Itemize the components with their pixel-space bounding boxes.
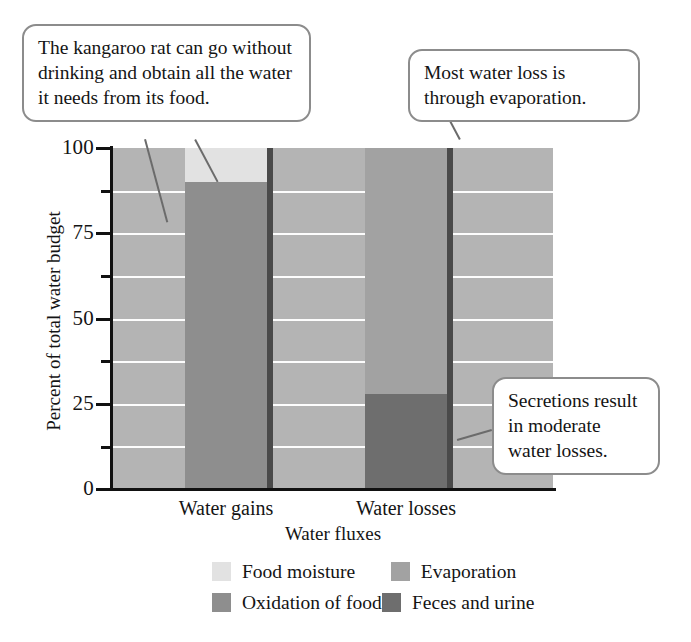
gridline-75 (113, 233, 553, 235)
bar-water-gains[interactable] (185, 148, 267, 489)
y-axis-label: Percent of total water budget (43, 166, 65, 476)
legend-row-2: Oxidation of food Feces and urine (212, 587, 532, 618)
legend-item-feces-and-urine[interactable]: Feces and urine (382, 592, 532, 614)
gridline-37 (113, 361, 553, 363)
y-tick-label-100: 100 (34, 137, 94, 158)
y-tick-label-0: 0 (34, 478, 94, 499)
gridline-87 (113, 191, 553, 193)
legend-item-evaporation[interactable]: Evaporation (391, 561, 532, 583)
callout-feces-and-urine: Secretions result in moderate water loss… (492, 377, 660, 475)
gridline-62 (113, 276, 553, 278)
y-tick-0 (96, 488, 113, 491)
segment-oxidation-of-food[interactable] (185, 182, 267, 489)
gridline-12 (113, 446, 553, 448)
legend-label-food-moisture: Food moisture (242, 561, 355, 583)
bar-shadow (447, 148, 453, 489)
legend-label-evaporation: Evaporation (421, 561, 516, 583)
bar-water-losses[interactable] (365, 148, 447, 489)
legend-swatch-food-moisture (212, 562, 231, 581)
y-tick-87 (101, 190, 113, 193)
legend-swatch-oxidation-of-food (212, 593, 231, 612)
callout-water-gains: The kangaroo rat can go without drinking… (22, 24, 311, 122)
x-tick-label-water-losses: Water losses (306, 497, 506, 520)
x-tick-label-water-gains: Water gains (126, 497, 326, 520)
bar-shadow (267, 148, 273, 489)
callout-water-losses: Most water loss is through evaporation. (408, 49, 640, 122)
x-axis-line (110, 488, 556, 491)
legend-label-feces-and-urine: Feces and urine (412, 592, 534, 614)
y-tick-100 (96, 147, 113, 150)
legend-item-oxidation-of-food[interactable]: Oxidation of food (212, 592, 382, 614)
gridline-25 (113, 404, 553, 406)
y-tick-62 (101, 275, 113, 278)
legend-row-1: Food moisture Evaporation (212, 556, 532, 587)
plot-panel (113, 148, 553, 489)
legend-swatch-evaporation (391, 562, 410, 581)
y-tick-12 (101, 446, 113, 449)
gridline-50 (113, 319, 553, 321)
y-tick-50 (96, 318, 113, 321)
segment-feces-and-urine[interactable] (365, 394, 447, 490)
segment-evaporation[interactable] (365, 148, 447, 394)
chart-legend: Food moisture Evaporation Oxidation of f… (212, 556, 532, 618)
x-axis-label: Water fluxes (113, 523, 553, 545)
y-tick-75 (96, 232, 113, 235)
legend-label-oxidation-of-food: Oxidation of food (242, 592, 382, 614)
y-tick-25 (96, 403, 113, 406)
segment-food-moisture[interactable] (185, 148, 267, 182)
water-budget-chart-figure: 100 75 50 25 0 Percent of total water bu… (0, 0, 691, 642)
y-tick-37 (101, 360, 113, 363)
legend-item-food-moisture[interactable]: Food moisture (212, 561, 391, 583)
legend-swatch-feces-and-urine (382, 593, 401, 612)
